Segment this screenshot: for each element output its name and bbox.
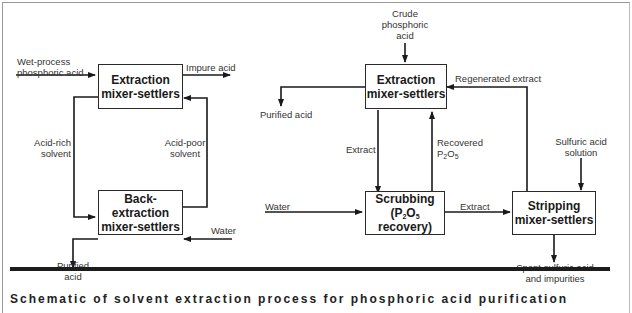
box-label-line1: Stripping <box>528 199 581 213</box>
label-line: P2O5 <box>437 148 483 159</box>
extract-right-label: Extract <box>460 201 490 212</box>
box-label-line1: Back-extraction <box>99 192 182 220</box>
impure-acid-label: Impure acid <box>186 62 236 73</box>
label-line: and impurities <box>512 273 598 284</box>
recovered-p2o5-label: Recovered P2O5 <box>437 137 483 159</box>
label-line: acid <box>375 30 435 41</box>
water-label-left: Water <box>211 225 236 236</box>
purified-acid-label-left: Purified acid <box>53 260 93 282</box>
scrubbing-box: Scrubbing (P2O5 recovery) <box>365 191 445 235</box>
figure-bottom-rule <box>10 267 610 271</box>
label-line: solvent <box>30 148 71 159</box>
spent-sulfuric-acid-label: Spent sulfuric acid and impurities <box>512 262 598 284</box>
extraction-mixer-settlers-box-left: Extraction mixer-settlers <box>98 64 183 109</box>
box-label-line2: mixer-settlers <box>367 87 446 101</box>
box-label-line2: mixer-settlers <box>101 87 180 101</box>
label-line: Recovered <box>437 137 483 148</box>
box-label-line2: mixer-settlers <box>515 213 594 227</box>
box-label-line2: mixer-settlers <box>101 220 180 234</box>
box-label-line1: Scrubbing <box>375 192 434 206</box>
box-label-line1: Extraction <box>377 73 436 87</box>
text-part: (P <box>390 206 402 220</box>
text-part: recovery) <box>378 220 432 234</box>
figure-caption: Schematic of solvent extraction process … <box>10 292 568 306</box>
label-line: Acid-rich <box>30 137 71 148</box>
label-line: solution <box>548 147 614 158</box>
extraction-mixer-settlers-box-right: Extraction mixer-settlers <box>365 64 447 109</box>
text-part: O <box>406 206 415 220</box>
extract-down-label: Extract <box>346 144 376 155</box>
label-line: phosphoric acid <box>17 67 84 78</box>
wet-process-feed-label: Wet-process phosphoric acid <box>17 56 84 78</box>
subscript: 5 <box>455 153 459 160</box>
purified-acid-label-right: Purified acid <box>260 109 312 120</box>
sulfuric-acid-solution-label: Sulfuric acid solution <box>548 136 614 158</box>
water-label-right: Water <box>265 201 290 212</box>
label-line: Crude <box>375 8 435 19</box>
label-line: phosphoric <box>375 19 435 30</box>
box-label-line1: Extraction <box>111 73 170 87</box>
regenerated-extract-label: Regenerated extract <box>455 73 541 84</box>
crude-phosphoric-acid-label: Crude phosphoric acid <box>375 8 435 41</box>
acid-rich-solvent-label: Acid-rich solvent <box>30 137 71 159</box>
label-line: Sulfuric acid <box>548 136 614 147</box>
stripping-mixer-settlers-box: Stripping mixer-settlers <box>512 191 596 235</box>
text-part: O <box>447 148 454 159</box>
subscript: 5 <box>416 213 420 220</box>
acid-poor-solvent-label: Acid-poor solvent <box>164 137 206 159</box>
label-line: acid <box>53 271 93 282</box>
box-label-line2: (P2O5 recovery) <box>366 206 444 234</box>
label-line: Acid-poor <box>164 137 206 148</box>
back-extraction-mixer-settlers-box: Back-extraction mixer-settlers <box>98 190 183 235</box>
label-line: Wet-process <box>17 56 84 67</box>
label-line: solvent <box>164 148 206 159</box>
